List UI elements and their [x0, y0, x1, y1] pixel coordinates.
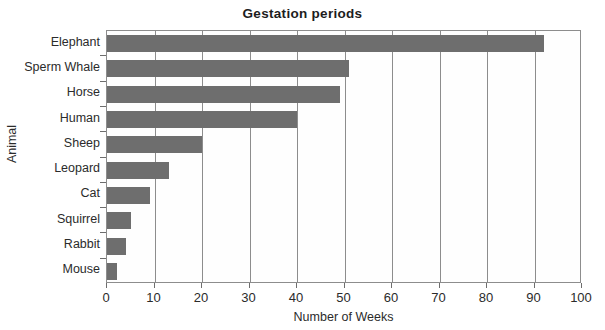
x-tick-label: 40 [276, 290, 316, 305]
x-tick-label: 70 [419, 290, 459, 305]
x-tick-mark [581, 283, 582, 288]
y-tick-label: Elephant [4, 35, 100, 49]
bar [107, 86, 340, 103]
bar [107, 187, 150, 204]
bar [107, 162, 169, 179]
x-tick-label: 90 [514, 290, 554, 305]
x-tick-label: 100 [561, 290, 601, 305]
y-tick-label: Leopard [4, 161, 100, 175]
x-tick-label: 20 [181, 290, 221, 305]
x-tick-mark [201, 283, 202, 288]
x-tick-mark [154, 283, 155, 288]
x-tick-label: 60 [371, 290, 411, 305]
y-tick-label: Sheep [4, 136, 100, 150]
bar [107, 238, 126, 255]
bar [107, 111, 297, 128]
x-tick-label: 30 [229, 290, 269, 305]
y-tick-mark [100, 182, 106, 183]
x-tick-mark [249, 283, 250, 288]
y-tick-label: Horse [4, 85, 100, 99]
y-tick-label: Mouse [4, 262, 100, 276]
y-tick-mark [100, 207, 106, 208]
x-tick-label: 0 [86, 290, 126, 305]
y-tick-label: Human [4, 111, 100, 125]
bar-chart: Gestation periods Animal ElephantSperm W… [0, 0, 605, 330]
x-tick-mark [391, 283, 392, 288]
x-tick-mark [439, 283, 440, 288]
y-tick-label: Squirrel [4, 212, 100, 226]
x-axis-title: Number of Weeks [106, 310, 581, 324]
bar [107, 35, 544, 52]
x-tick-label: 50 [324, 290, 364, 305]
x-tick-label: 80 [466, 290, 506, 305]
y-tick-mark [100, 157, 106, 158]
y-tick-mark [100, 131, 106, 132]
y-axis-labels: ElephantSperm WhaleHorseHumanSheepLeopar… [0, 0, 100, 330]
plot-area [106, 30, 581, 283]
bar [107, 60, 349, 77]
x-tick-mark [106, 283, 107, 288]
bars [107, 31, 580, 282]
x-tick-mark [296, 283, 297, 288]
y-tick-mark [100, 55, 106, 56]
x-tick-mark [534, 283, 535, 288]
y-tick-label: Cat [4, 186, 100, 200]
bar [107, 136, 202, 153]
x-tick-mark [486, 283, 487, 288]
y-tick-label: Rabbit [4, 237, 100, 251]
x-tick-mark [344, 283, 345, 288]
bar [107, 263, 117, 280]
bar [107, 212, 131, 229]
x-tick-label: 10 [134, 290, 174, 305]
y-tick-mark [100, 232, 106, 233]
y-tick-mark [100, 81, 106, 82]
y-tick-mark [100, 106, 106, 107]
y-tick-label: Sperm Whale [4, 60, 100, 74]
y-tick-mark [100, 258, 106, 259]
